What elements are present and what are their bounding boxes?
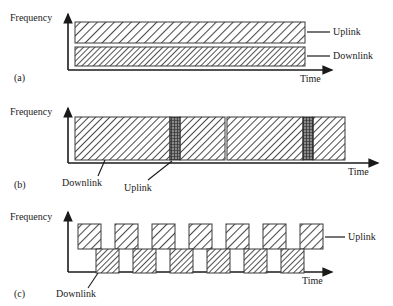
panel-a-downlink-label: Downlink — [333, 50, 373, 61]
panel-b-downlink-label: Downlink — [62, 177, 102, 188]
panel-c-y-axis-label: Frequency — [10, 212, 52, 222]
panel-a: Frequency Time Uplink Downlink (a) — [0, 0, 393, 95]
panel-a-x-axis-label: Time — [300, 74, 321, 84]
panel-b-tag: (b) — [14, 179, 26, 190]
panel-b-x-axis-label: Time — [348, 167, 369, 177]
panel-c-tag: (c) — [14, 288, 25, 299]
duplexing-schemes-figure: Frequency Time Uplink Downlink (a) Frequ… — [0, 0, 393, 306]
panel-a-y-axis-label: Frequency — [10, 13, 52, 23]
panel-c-uplink-label: Uplink — [348, 231, 376, 242]
panel-a-uplink-label: Uplink — [333, 26, 361, 37]
panel-a-tag: (a) — [14, 72, 25, 83]
panel-b: Frequency Time Downlink Uplink (b) — [0, 95, 393, 195]
panel-c-downlink-label: Downlink — [56, 288, 96, 299]
panel-b-uplink-label: Uplink — [124, 182, 152, 193]
panel-b-y-axis-label: Frequency — [10, 107, 52, 117]
panel-c-x-axis-label: Time — [302, 276, 323, 286]
panel-c: Frequency Time Uplink Downlink (c) — [0, 195, 393, 306]
